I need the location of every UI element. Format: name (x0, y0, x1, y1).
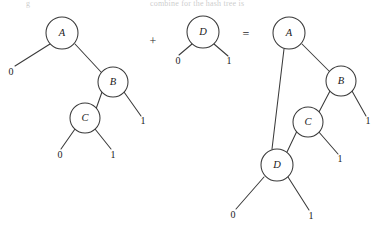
edge-result-A-to-D (272, 49, 284, 149)
node-A-label: A (58, 27, 66, 38)
leaf-label-A-0: 0 (9, 66, 14, 77)
edge-A-to-B (75, 44, 101, 72)
result-leaf-label-D-0: 0 (231, 209, 236, 220)
edge-D-to-leaf1 (214, 44, 228, 56)
edge-result-B-to-leaf1 (352, 91, 366, 116)
result-leaf-label-C-1: 1 (338, 153, 343, 164)
node-C-label: C (81, 112, 89, 123)
result-node-B[interactable]: B (326, 66, 356, 96)
edge-result-A-to-B (302, 44, 329, 71)
equals-operator: = (243, 27, 250, 41)
edge-result-B-to-C (319, 91, 330, 112)
edge-result-C-to-D (287, 131, 297, 152)
edge-D-to-leaf0 (179, 44, 192, 55)
result-node-C[interactable]: C (293, 107, 323, 137)
node-A[interactable]: A (46, 17, 78, 49)
result-node-D-label: D (272, 159, 281, 170)
leaf-label-B-1: 1 (141, 115, 146, 126)
leaf-label-C-1: 1 (111, 149, 116, 160)
result-node-D[interactable]: D (261, 149, 293, 181)
result-leaf-label-B-1: 1 (366, 115, 371, 126)
left-tree: A B C 0 1 0 1 (9, 17, 146, 160)
edge-A-to-leaf0 (15, 44, 50, 66)
node-D[interactable]: D (187, 16, 219, 48)
edge-result-D-to-leaf1 (288, 177, 309, 210)
middle-tree: D 0 1 (176, 16, 232, 66)
node-B[interactable]: B (98, 67, 128, 97)
edge-B-to-leaf1 (124, 92, 141, 116)
node-C[interactable]: C (70, 103, 100, 133)
result-node-A[interactable]: A (273, 17, 305, 49)
leaf-label-D-1: 1 (227, 55, 232, 66)
edge-B-to-C (96, 92, 102, 109)
result-leaf-label-D-1: 1 (309, 210, 314, 221)
result-node-C-label: C (304, 116, 312, 127)
plus-operator: + (150, 34, 157, 48)
node-B-label: B (110, 76, 117, 87)
edge-result-D-to-leaf0 (236, 177, 264, 209)
result-node-B-label: B (338, 75, 345, 86)
edge-result-C-to-leaf1 (318, 131, 338, 154)
node-D-label: D (198, 26, 207, 37)
edge-C-to-leaf1 (95, 129, 111, 149)
leaf-label-D-0: 0 (176, 55, 181, 66)
hash-tree-combination-figure: A B C 0 1 0 1 + D 0 1 (0, 0, 377, 234)
left-tree-edges (15, 44, 141, 149)
leaf-label-C-0: 0 (58, 149, 63, 160)
result-node-A-label: A (285, 27, 293, 38)
edge-C-to-leaf0 (61, 129, 75, 149)
result-tree: A B C D 1 1 0 1 (231, 17, 371, 221)
